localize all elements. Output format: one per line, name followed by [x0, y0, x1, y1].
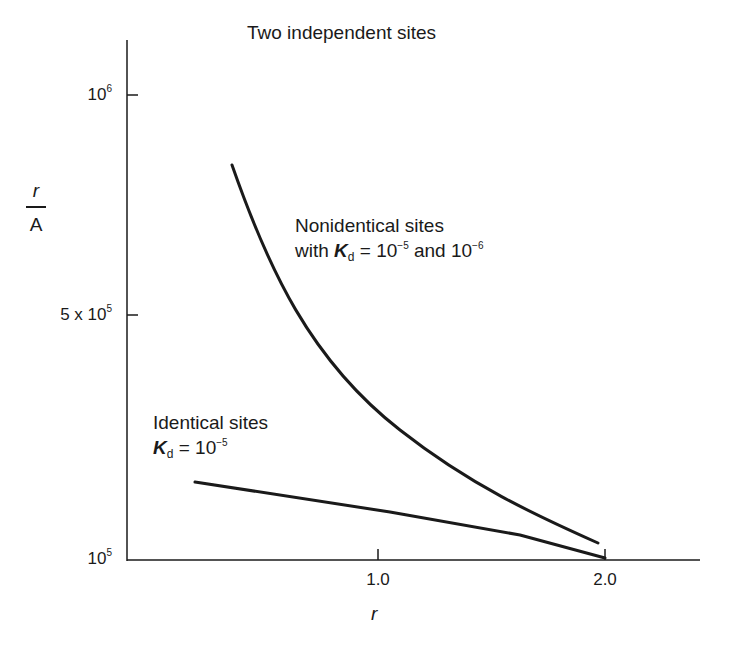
y-axis-label-denominator: A	[22, 214, 50, 236]
text: with	[295, 240, 334, 261]
y-tick-label-1e6: 106	[22, 85, 112, 105]
identical-line1: Identical sites	[153, 410, 268, 435]
k-symbol: K	[334, 240, 348, 261]
y-tick-exponent: 6	[106, 83, 112, 94]
identical-sites-line	[195, 482, 605, 558]
chart-title: Two independent sites	[247, 22, 436, 44]
subscript-d: d	[348, 250, 355, 264]
k-symbol: K	[153, 437, 167, 458]
nonidentical-sites-annotation: Nonidentical sites with Kd = 10−5 and 10…	[295, 213, 484, 263]
identical-line2: Kd = 10−5	[153, 435, 268, 460]
y-axis-label-numerator: r	[22, 180, 50, 202]
y-tick-label-1e5: 105	[22, 549, 112, 569]
nonidentical-line2: with Kd = 10−5 and 10−6	[295, 238, 484, 263]
y-tick-label-5e5: 5 x 105	[22, 305, 112, 325]
text: = 10	[355, 240, 398, 261]
y-tick-base: 10	[88, 549, 107, 568]
y-tick-base: 10	[88, 85, 107, 104]
y-tick-exponent: 5	[106, 303, 112, 314]
exponent: −5	[397, 240, 408, 251]
y-tick-base: 5 x 10	[60, 305, 106, 324]
identical-sites-annotation: Identical sites Kd = 10−5	[153, 410, 268, 460]
nonidentical-line1: Nonidentical sites	[295, 213, 484, 238]
x-axis-label: r	[371, 603, 377, 625]
text: and 10	[409, 240, 472, 261]
text: = 10	[173, 437, 216, 458]
fraction-bar	[26, 206, 46, 208]
y-axis-label: r A	[22, 180, 50, 236]
x-tick-label-1: 1.0	[353, 570, 403, 590]
exponent: −5	[216, 437, 227, 448]
y-tick-exponent: 5	[106, 547, 112, 558]
exponent: −6	[472, 240, 483, 251]
x-tick-label-2: 2.0	[580, 570, 630, 590]
